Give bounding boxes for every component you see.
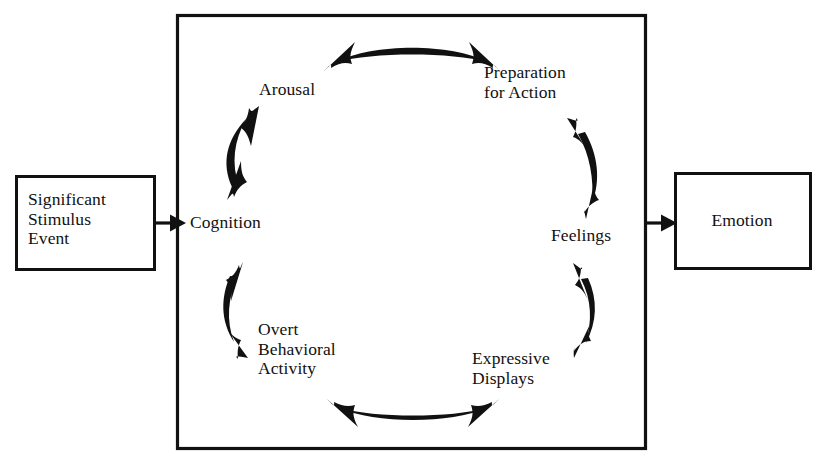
feelings-expressive-arrow: [573, 263, 595, 358]
arousal-preparation-arrow: [324, 42, 500, 71]
emotion-cycle-diagram: PREPARATION FOR ACTION (top) ---- --> AR…: [0, 0, 825, 465]
cycle-node-feelings: Feelings: [551, 226, 611, 246]
expressive-overt-arrow: [327, 399, 499, 427]
overt-cognition-arrow: [223, 262, 248, 359]
cycle-node-overt-behavioral-activity: Overt Behavioral Activity: [258, 320, 336, 379]
diagram-graphics-layer: PREPARATION FOR ACTION (top) ---- --> AR…: [0, 0, 825, 465]
cycle-to-output-arrow: [647, 215, 677, 232]
output-box-label: Emotion: [674, 211, 810, 231]
cycle-node-cognition: Cognition: [190, 213, 261, 233]
cycle-node-preparation-for-action: Preparation for Action: [484, 63, 566, 102]
input-box-label: Significant Stimulus Event: [28, 190, 106, 249]
cycle-node-expressive-displays: Expressive Displays: [472, 349, 550, 388]
cognition-arousal-arrow: [227, 106, 259, 200]
preparation-feelings-arrow: [567, 118, 599, 219]
input-to-cycle-arrow: [155, 215, 186, 232]
cycle-node-arousal: Arousal: [259, 80, 315, 100]
